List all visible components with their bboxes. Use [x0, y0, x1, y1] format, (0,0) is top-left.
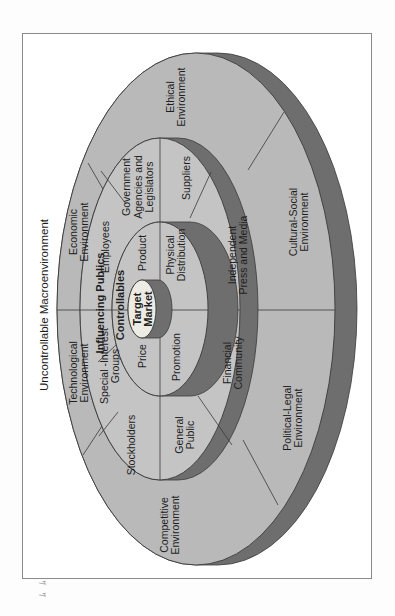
label-economic-environment-line: Economic: [67, 209, 79, 255]
label-special-interest-groups-line: Groups: [109, 349, 121, 383]
label-government-agencies-line: Agencies and: [132, 155, 144, 219]
label-special-interest-groups-line: Special -Interest: [98, 328, 110, 404]
label-target-market-line: Market: [142, 291, 154, 327]
label-product-line: Product: [136, 235, 148, 271]
label-controllables: Controllables: [114, 270, 126, 340]
label-cultural-social-environment-line: Environment: [298, 192, 310, 251]
label-government-agencies-line: Legislators: [143, 162, 155, 213]
figure-title: Uncontrollable Macroenvironment: [38, 218, 50, 391]
marketing-environment-diagram: Uncontrollable MacroenvironmentEthicalEn…: [0, 0, 395, 616]
label-financial-community: FinancialCommunity: [221, 336, 245, 390]
label-stockholders-line: Stockholders: [125, 415, 137, 476]
figure-title-line: Uncontrollable Macroenvironment: [38, 218, 50, 391]
label-ethical-environment-line: Environment: [175, 67, 187, 126]
label-target-market: TargetMarket: [131, 291, 154, 327]
label-cultural-social-environment: Cultural-SocialEnvironment: [287, 188, 311, 256]
label-technological-environment-line: Environment: [78, 343, 90, 402]
label-physical-distribution: PhysicalDistribution: [164, 229, 188, 282]
scanned-page: Uncontrollable MacroenvironmentEthicalEn…: [0, 0, 395, 616]
label-product: Product: [136, 235, 148, 271]
label-suppliers: Suppliers: [180, 156, 192, 200]
label-stockholders: Stockholders: [125, 415, 137, 476]
label-general-public-line: General: [173, 416, 185, 453]
label-government-agencies: GovernmentAgencies andLegislators: [120, 155, 155, 219]
label-competitive-environment-line: Environment: [169, 495, 181, 554]
label-suppliers-line: Suppliers: [180, 156, 192, 200]
page-mark: ﾑ ﾑ: [36, 578, 49, 597]
label-controllables-line: Controllables: [114, 270, 126, 340]
label-economic-environment-line: Environment: [78, 202, 90, 261]
label-independent-press-and-media-line: Press and Media: [237, 215, 249, 294]
label-technological-environment-line: Technological: [67, 341, 79, 405]
label-competitive-environment: CompetitiveEnvironment: [158, 495, 182, 554]
label-ethical-environment-line: Ethical: [164, 81, 176, 113]
label-economic-environment: EconomicEnvironment: [67, 202, 91, 261]
label-promotion: Promotion: [170, 333, 182, 381]
label-competitive-environment-line: Competitive: [158, 497, 170, 553]
label-cultural-social-environment-line: Cultural-Social: [287, 188, 299, 256]
label-general-public: GeneralPublic: [173, 416, 197, 453]
label-financial-community-line: Community: [232, 336, 244, 390]
label-government-agencies-line: Government: [120, 158, 132, 216]
label-political-legal-environment: Political-LegalEnvironment: [281, 385, 305, 450]
label-physical-distribution-line: Distribution: [175, 229, 187, 282]
label-employees: Employees: [99, 221, 111, 273]
label-political-legal-environment-line: Environment: [292, 388, 304, 447]
label-promotion-line: Promotion: [170, 333, 182, 381]
label-technological-environment: TechnologicalEnvironment: [67, 341, 91, 405]
label-financial-community-line: Financial: [221, 342, 233, 384]
label-independent-press-and-media-line: Independent: [226, 226, 238, 284]
label-physical-distribution-line: Physical: [164, 235, 176, 274]
label-general-public-line: Public: [184, 421, 196, 450]
label-independent-press-and-media: IndependentPress and Media: [226, 215, 250, 294]
label-price-line: Price: [136, 344, 148, 368]
label-price: Price: [136, 344, 148, 368]
label-employees-line: Employees: [99, 221, 111, 273]
label-political-legal-environment-line: Political-Legal: [281, 385, 293, 450]
